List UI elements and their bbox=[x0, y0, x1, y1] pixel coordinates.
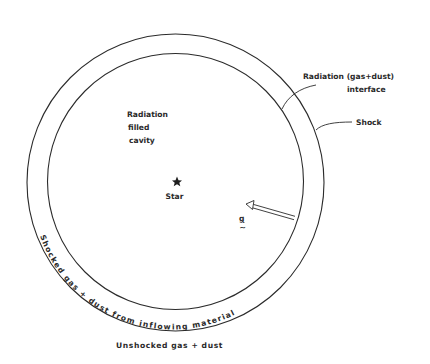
star-label: Star bbox=[166, 192, 184, 201]
shell-label: Shocked gas + dust from inflowing materi… bbox=[38, 233, 237, 331]
gravity-tilde: ~ bbox=[240, 223, 246, 232]
outer-region-label: Unshocked gas + dust bbox=[116, 341, 223, 350]
cavity-label-line2: filled bbox=[128, 123, 149, 132]
gravity-arrow bbox=[246, 201, 295, 220]
cavity-diagram: Radiation (gas+dust) interface Shock Rad… bbox=[0, 0, 430, 364]
cavity-label-line1: Radiation bbox=[127, 110, 168, 119]
shell-label-path: Shocked gas + dust from inflowing materi… bbox=[38, 233, 237, 331]
interface-label-line1: Radiation (gas+dust) bbox=[303, 72, 394, 81]
cavity-label-line3: cavity bbox=[129, 136, 155, 145]
shock-label: Shock bbox=[356, 118, 383, 127]
interface-leader-line bbox=[282, 85, 316, 109]
star-icon bbox=[172, 177, 182, 187]
shock-leader-line bbox=[316, 122, 352, 130]
interface-label-line2: interface bbox=[347, 85, 386, 94]
gravity-symbol: g bbox=[239, 214, 244, 223]
